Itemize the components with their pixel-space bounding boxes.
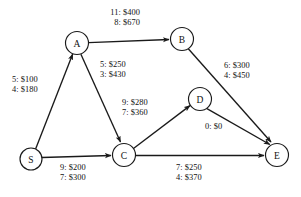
edge-label-S-A-line1: 5: $100 xyxy=(12,75,38,85)
graph-canvas: S A B C D E xyxy=(0,0,301,197)
edge-label-C-E: 7: $250 4: $370 xyxy=(176,163,202,183)
nodes-group: S A B C D E xyxy=(20,28,289,171)
node-C-label: C xyxy=(121,151,127,161)
edge-label-A-B-line2: 8: $670 xyxy=(96,18,140,28)
edge-label-S-C-line1: 9: $200 xyxy=(60,163,86,173)
edge-label-C-D-line1: 9: $280 xyxy=(122,98,148,108)
node-S[interactable]: S xyxy=(20,148,42,170)
edge-A-B xyxy=(89,40,170,43)
edge-label-C-E-line1: 7: $250 xyxy=(176,163,202,173)
edge-label-S-A: 5: $100 4: $180 xyxy=(12,75,38,95)
edges-group xyxy=(36,40,271,158)
node-B-label: B xyxy=(179,35,185,45)
edge-S-C xyxy=(42,156,111,158)
edge-label-D-E-line1: 0: $0 xyxy=(205,122,222,132)
node-D-label: D xyxy=(197,95,204,105)
edge-label-A-C: 5: $250 3: $430 xyxy=(100,60,126,80)
edge-label-C-E-line2: 4: $370 xyxy=(176,173,202,183)
node-E[interactable]: E xyxy=(266,144,289,167)
node-B[interactable]: B xyxy=(171,28,194,51)
edge-label-S-C: 9: $200 7: $300 xyxy=(60,163,86,183)
edge-label-C-D-line2: 7: $360 xyxy=(122,108,148,118)
edge-label-B-E-line1: 6: $300 xyxy=(224,61,250,71)
edge-label-B-E-line2: 4: $450 xyxy=(224,71,250,81)
edge-label-A-C-line1: 5: $250 xyxy=(100,60,126,70)
node-A[interactable]: A xyxy=(66,32,89,55)
edge-label-A-C-line2: 3: $430 xyxy=(100,70,126,80)
edge-label-S-C-line2: 7: $300 xyxy=(60,173,86,183)
edge-label-B-E: 6: $300 4: $450 xyxy=(224,61,250,81)
edge-label-A-B-line1: 11: $400 xyxy=(96,8,140,18)
edge-label-S-A-line2: 4: $180 xyxy=(12,85,38,95)
node-D[interactable]: D xyxy=(189,88,212,111)
edge-label-A-B: 11: $400 8: $670 xyxy=(96,8,140,28)
node-C[interactable]: C xyxy=(113,144,136,167)
node-S-label: S xyxy=(28,155,33,165)
edge-label-C-D: 9: $280 7: $360 xyxy=(122,98,148,118)
edge-S-A xyxy=(36,54,73,149)
network-diagram: S A B C D E 5: $100 xyxy=(0,0,301,197)
edge-label-D-E: 0: $0 xyxy=(205,122,222,132)
node-A-label: A xyxy=(74,39,81,49)
node-E-label: E xyxy=(274,151,280,161)
